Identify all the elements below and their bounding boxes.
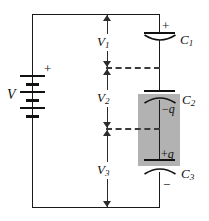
dashed-node-line-2 [106, 128, 160, 130]
wire-c1-to-c2 [159, 40, 160, 90]
wire-bottom [32, 207, 160, 208]
wire-c2-to-c3 [159, 100, 160, 160]
c2-top-plate [144, 90, 175, 92]
dashed-node-line-1 [106, 67, 160, 69]
battery-plate-short-2 [26, 99, 39, 102]
battery-plate-long-2 [20, 91, 45, 93]
c3-positive-charge-label: +q [161, 148, 174, 160]
c2-label: C2 [182, 93, 195, 108]
v1-arrowhead-bottom [103, 61, 111, 67]
wire-left [32, 14, 33, 208]
battery-plate-long-3 [20, 107, 45, 109]
c3-label: C3 [181, 167, 194, 182]
battery-voltage-label: V [7, 88, 16, 102]
v2-label: V2 [95, 90, 111, 107]
c3-bottom-plate-curve [144, 164, 176, 176]
c1-plus-sign: + [162, 19, 169, 32]
battery-plate-short-1 [26, 83, 39, 86]
v2-arrowhead-bottom [103, 122, 111, 128]
battery-plate-short-3 [26, 115, 39, 118]
wire-right-top [159, 14, 160, 32]
battery-plate-long-1 [20, 75, 45, 77]
battery-plus-sign: + [44, 62, 51, 75]
c1-label: C1 [180, 33, 193, 48]
c1-bottom-plate-curve [144, 34, 176, 44]
c2-negative-charge-label: −q [162, 103, 175, 115]
wire-c3-to-bottom [159, 172, 160, 208]
v3-label: V3 [95, 162, 111, 179]
c3-minus-sign: − [163, 178, 170, 191]
v3-arrowhead-bottom [103, 201, 111, 207]
v1-label: V1 [95, 34, 111, 51]
circuit-diagram-figure: + V + C1 −q C2 +q − C3 V1 V2 V3 [0, 0, 209, 221]
wire-top [32, 14, 160, 15]
